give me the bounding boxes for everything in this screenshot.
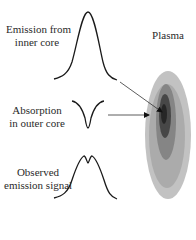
plasma-ellipse bbox=[145, 71, 191, 199]
emission-label-line1: Emission from bbox=[6, 23, 68, 36]
absorption-label: Absorption in outer core bbox=[6, 104, 68, 130]
absorption-label-line2: in outer core bbox=[6, 117, 68, 130]
observed-label-line1: Observed bbox=[4, 166, 72, 179]
emission-label: Emission from inner core bbox=[6, 23, 68, 49]
observed-label-line2: emission signal bbox=[4, 179, 72, 192]
absorption-profile bbox=[72, 101, 104, 128]
plasma-label: Plasma bbox=[148, 29, 188, 42]
observed-label: Observed emission signal bbox=[4, 166, 72, 192]
absorption-label-line1: Absorption bbox=[6, 104, 68, 117]
emission-label-line2: inner core bbox=[6, 36, 68, 49]
